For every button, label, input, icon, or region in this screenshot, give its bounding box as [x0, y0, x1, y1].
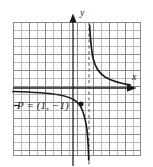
graph-overlay	[0, 0, 153, 167]
graph-figure: y x P = (1, −1)	[0, 0, 153, 167]
y-axis-label: y	[80, 8, 84, 18]
x-axis-label: x	[132, 72, 136, 82]
hyperbola-right-branch	[90, 25, 130, 85]
point-p-label: P = (1, −1)	[17, 100, 69, 111]
y-axis-arrow-icon	[69, 14, 76, 23]
point-marker-p	[79, 102, 84, 107]
